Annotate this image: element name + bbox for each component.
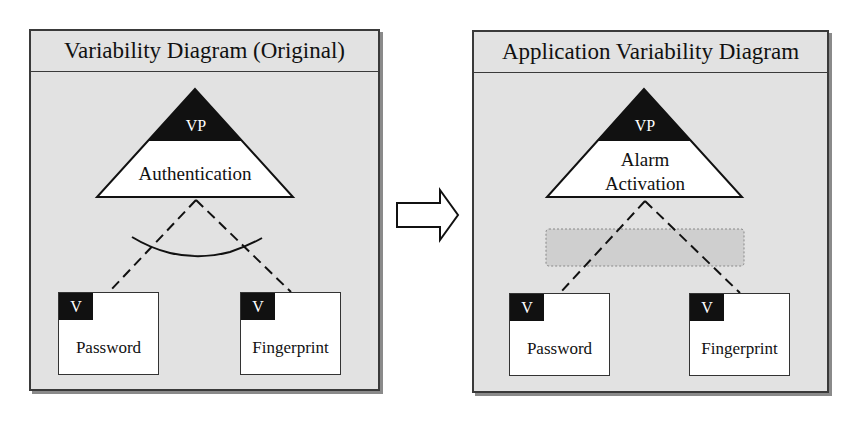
- variant-name: Fingerprint: [241, 338, 340, 358]
- right-vp-name-line1: Alarm: [595, 149, 695, 171]
- right-variant-password: V Password: [509, 293, 610, 376]
- variant-tag: V: [59, 293, 93, 320]
- left-variant-fingerprint: V Fingerprint: [240, 292, 341, 375]
- left-variant-password: V Password: [58, 292, 159, 375]
- variant-name: Fingerprint: [690, 339, 789, 359]
- variant-name: Password: [59, 338, 158, 358]
- variant-name: Password: [510, 339, 609, 359]
- left-panel-title: Variability Diagram (Original): [31, 31, 378, 72]
- left-vp-tag: VP: [166, 117, 226, 135]
- right-panel-title: Application Variability Diagram: [474, 32, 827, 73]
- right-vp-tag: VP: [615, 117, 675, 135]
- right-vp-name-line2: Activation: [585, 173, 705, 195]
- variant-tag: V: [510, 294, 544, 321]
- right-arrow-icon: [397, 190, 458, 240]
- variant-tag: V: [241, 293, 275, 320]
- right-variant-fingerprint: V Fingerprint: [689, 293, 790, 376]
- left-vp-name: Authentication: [120, 163, 270, 185]
- variant-tag: V: [690, 294, 724, 321]
